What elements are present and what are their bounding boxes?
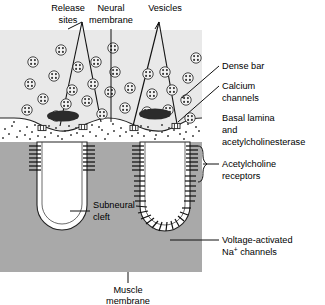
label-release-sites-line1: Release <box>51 3 85 13</box>
label-dense-bar: Dense bar <box>222 61 264 71</box>
label-na-channels-symbol: Na <box>222 247 235 257</box>
dense-bar-left <box>47 110 79 121</box>
label-calcium-channels-line1: Calcium <box>222 81 256 91</box>
label-ach-receptors-line1: Acetylcholine <box>222 159 276 169</box>
label-calcium-channels-line2: channels <box>222 93 259 103</box>
label-neural-membrane-line1: Neural <box>97 3 124 13</box>
label-ach-receptors-line2: receptors <box>222 171 261 181</box>
figure-canvas: Release sites Neural membrane Vesicles D… <box>0 0 325 305</box>
label-na-channels-line1: Voltage-activated <box>222 235 293 245</box>
neuromuscular-junction-diagram: Release sites Neural membrane Vesicles D… <box>0 0 325 305</box>
label-basal-lamina-line1: Basal lamina <box>222 113 275 123</box>
subneural-cleft-right <box>140 142 190 231</box>
dense-bar-right <box>139 108 171 119</box>
label-subneural-cleft-line1: Subneural <box>93 200 135 210</box>
label-vesicles: Vesicles <box>148 3 182 13</box>
label-subneural-cleft-line2: cleft <box>93 212 110 222</box>
label-basal-lamina-line2: and <box>222 125 237 135</box>
label-muscle-membrane-line1: Muscle <box>113 285 142 295</box>
label-release-sites-line2: sites <box>59 15 78 25</box>
label-na-channels-suffix: channels <box>238 247 278 257</box>
label-basal-lamina-line3: acetylcholinesterase <box>222 137 305 147</box>
label-neural-membrane-line2: membrane <box>89 15 133 25</box>
label-na-channels-line2: Na+ channels <box>222 246 277 257</box>
label-muscle-membrane-line2: membrane <box>106 296 150 305</box>
subneural-cleft-left <box>37 142 87 230</box>
